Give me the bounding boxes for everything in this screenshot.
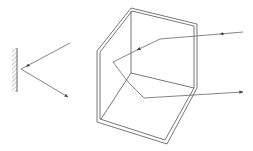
reflected-ray: [21, 69, 68, 97]
ray-to-face-cont: [113, 50, 137, 62]
ray-return: [128, 82, 144, 98]
corner-reflector: [97, 8, 197, 144]
reflection-diagram: [0, 0, 253, 151]
incident-ray-tail: [21, 67, 26, 70]
ray-incoming: [220, 32, 243, 34]
plane-mirror: [12, 43, 70, 97]
reflector-outline-outer: [97, 8, 197, 144]
ray-bounce: [113, 62, 128, 82]
ray-outgoing: [144, 92, 243, 98]
ray-incoming-cont: [160, 34, 220, 39]
mirror-hatching: [12, 48, 17, 92]
diagram-canvas: [0, 0, 253, 151]
retro-ray-path: [113, 32, 243, 98]
incident-ray: [26, 43, 70, 67]
reflector-inner-right: [131, 73, 194, 88]
ray-to-face: [137, 39, 160, 50]
